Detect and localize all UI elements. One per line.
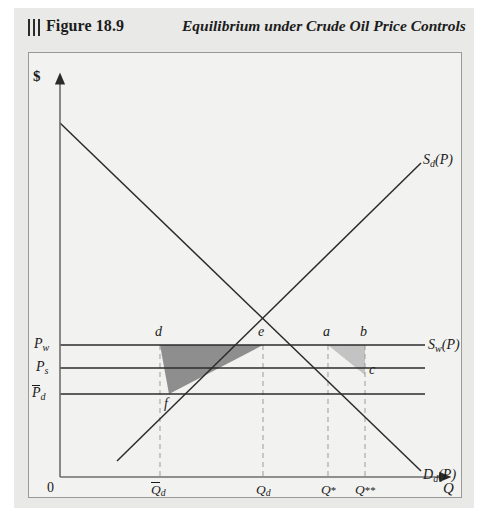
point-label-e: e [258, 325, 264, 339]
price-tick-pw: Pw [34, 337, 49, 353]
curve-label-domestic-supply: Sd(P) [423, 153, 453, 169]
quantity-tick-qdbar: Qd [151, 483, 166, 498]
price-tick-ps: Ps [36, 360, 49, 376]
point-label-b: b [360, 325, 367, 339]
curve-label-domestic-demand: Dd(P) [423, 468, 456, 484]
figure-container: Figure 18.9 Equilibrium under Crude Oil … [14, 8, 474, 508]
figure-header: Figure 18.9 Equilibrium under Crude Oil … [14, 8, 474, 48]
y-axis-label: $ [33, 69, 41, 84]
figure-number: Figure 18.9 [46, 17, 124, 35]
rule-marks-icon [28, 19, 40, 36]
shade-region-abc [328, 345, 365, 375]
point-label-a: a [323, 325, 330, 339]
shade-region-def [160, 345, 263, 394]
quantity-tick-qstar: Q* [321, 483, 336, 497]
curve-domestic-demand [60, 123, 421, 471]
point-label-f: f [164, 397, 168, 411]
curve-label-world-supply: Sw(P) [428, 338, 460, 354]
figure-title: Equilibrium under Crude Oil Price Contro… [182, 17, 466, 35]
quantity-tick-qd: Qd [256, 483, 271, 498]
point-label-c: c [369, 363, 375, 377]
figure-graphic [29, 53, 459, 495]
point-label-d: d [155, 325, 162, 339]
origin-label: 0 [47, 481, 54, 495]
quantity-tick-qstar2: Q** [355, 483, 376, 497]
curve-domestic-supply [117, 163, 421, 461]
price-tick-pd: Pd [32, 386, 46, 402]
plot-area: $ Q 0 Pw Ps Pd Qd Qd Q* Q** Sd(P) [28, 52, 462, 498]
